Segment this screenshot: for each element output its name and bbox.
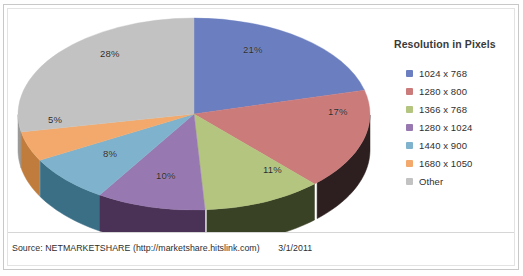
legend-swatch-icon xyxy=(406,142,413,149)
legend-swatch-icon xyxy=(406,124,413,131)
source-date: 3/1/2011 xyxy=(278,243,312,253)
legend-list: 1024 x 768 1280 x 800 1366 x 768 1280 x … xyxy=(388,64,516,190)
legend-item-label: 1680 x 1050 xyxy=(419,158,472,169)
legend-swatch-icon xyxy=(406,160,413,167)
legend: Resolution in Pixels 1024 x 768 1280 x 8… xyxy=(388,38,516,190)
slice-label-other: 28% xyxy=(100,48,120,59)
legend-item-label: 1024 x 768 xyxy=(419,68,467,79)
chart-figure: 21% 17% 11% 10% 8% 5% 28% Resolution in … xyxy=(0,0,523,276)
slice-label-1366x768: 11% xyxy=(263,164,282,175)
legend-item-1366x768[interactable]: 1366 x 768 xyxy=(406,100,516,118)
source-caption: Source: NETMARKETSHARE (http://marketsha… xyxy=(12,243,312,253)
legend-item-label: Other xyxy=(419,176,443,187)
legend-item-label: 1280 x 800 xyxy=(419,86,467,97)
legend-item-1680x1050[interactable]: 1680 x 1050 xyxy=(406,154,516,172)
slice-label-1280x800: 17% xyxy=(328,106,348,117)
slice-label-1280x1024: 10% xyxy=(156,170,176,181)
legend-title: Resolution in Pixels xyxy=(394,38,516,50)
legend-swatch-icon xyxy=(406,178,413,185)
slice-label-1440x900: 8% xyxy=(103,148,117,159)
legend-item-1280x800[interactable]: 1280 x 800 xyxy=(406,82,516,100)
caption-divider xyxy=(8,232,514,233)
legend-item-label: 1366 x 768 xyxy=(419,104,467,115)
source-text: Source: NETMARKETSHARE (http://marketsha… xyxy=(12,243,260,253)
legend-item-label: 1440 x 900 xyxy=(419,140,467,151)
legend-swatch-icon xyxy=(406,70,413,77)
legend-item-1024x768[interactable]: 1024 x 768 xyxy=(406,64,516,82)
legend-item-label: 1280 x 1024 xyxy=(419,122,472,133)
legend-swatch-icon xyxy=(406,88,413,95)
legend-item-1440x900[interactable]: 1440 x 900 xyxy=(406,136,516,154)
slice-label-1680x1050: 5% xyxy=(48,114,62,125)
slice-label-1024x768: 21% xyxy=(243,44,263,55)
legend-item-1280x1024[interactable]: 1280 x 1024 xyxy=(406,118,516,136)
legend-item-other[interactable]: Other xyxy=(406,172,516,190)
legend-swatch-icon xyxy=(406,106,413,113)
pie-chart-svg xyxy=(8,10,380,232)
pie-chart-area: 21% 17% 11% 10% 8% 5% 28% xyxy=(8,10,380,232)
